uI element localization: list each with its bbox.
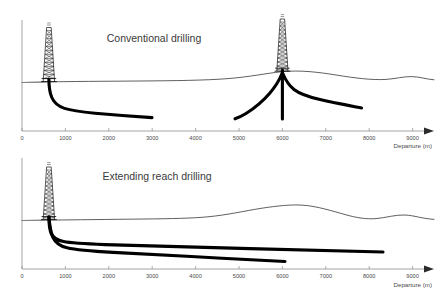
derrick-left-top: [41, 23, 57, 82]
panel-conventional: 0 1000 2000 3000 4000 5000 6000 7000 800…: [20, 15, 434, 149]
figure-canvas: 0 1000 2000 3000 4000 5000 6000 7000 800…: [0, 0, 445, 295]
x-tick-label-5000: 5000: [233, 135, 245, 141]
x-ticks-top: [22, 128, 413, 131]
panel-title-conventional: Conventional drilling: [107, 32, 202, 44]
x-axis-caption-bottom: Departure (m): [393, 281, 432, 288]
x-tick-label-7000-bottom: 7000: [320, 273, 332, 279]
x-tick-label-7000: 7000: [320, 135, 332, 141]
x-axis-arrow-top: [424, 128, 434, 135]
x-tick-label-8000: 8000: [363, 135, 375, 141]
x-tick-label-4000-bottom: 4000: [189, 273, 201, 279]
x-axis-arrow-bottom: [424, 266, 434, 273]
x-tick-label-5000-bottom: 5000: [233, 273, 245, 279]
derrick-left-bottom: [41, 163, 57, 220]
panel-extending-reach: 0 1000 2000 3000 4000 5000 6000 7000 800…: [20, 158, 434, 288]
x-tick-label-3000: 3000: [146, 135, 158, 141]
wellbore-extended-reach-2: [49, 217, 285, 262]
x-tick-label-9000: 9000: [406, 135, 418, 141]
wellbore-multilateral-right: [283, 74, 362, 109]
x-tick-label-8000-bottom: 8000: [363, 273, 375, 279]
panel-title-extending-reach: Extending reach drilling: [102, 170, 211, 182]
x-tick-label-6000-bottom: 6000: [276, 273, 288, 279]
x-tick-label-0-bottom: 0: [20, 273, 23, 279]
x-tick-label-9000-bottom: 9000: [406, 273, 418, 279]
ground-surface-bottom: [22, 205, 434, 221]
x-tick-label-2000: 2000: [103, 135, 115, 141]
x-axis-caption-top: Departure (m): [393, 142, 432, 149]
x-tick-label-3000-bottom: 3000: [146, 273, 158, 279]
wellbore-extended-reach-1: [49, 217, 383, 252]
x-tick-label-4000: 4000: [189, 135, 201, 141]
derrick-right-top: [275, 15, 291, 72]
x-tick-label-1000-bottom: 1000: [59, 273, 71, 279]
x-tick-label-0: 0: [20, 135, 23, 141]
wellbore-conventional-1: [49, 79, 152, 118]
x-ticks-bottom: [22, 266, 413, 269]
x-tick-label-6000: 6000: [276, 135, 288, 141]
x-tick-label-2000-bottom: 2000: [103, 273, 115, 279]
wellbore-multilateral-left: [235, 74, 282, 119]
x-tick-label-1000: 1000: [59, 135, 71, 141]
drilling-comparison-figure: 0 1000 2000 3000 4000 5000 6000 7000 800…: [0, 0, 445, 295]
ground-surface-top: [22, 71, 434, 82]
